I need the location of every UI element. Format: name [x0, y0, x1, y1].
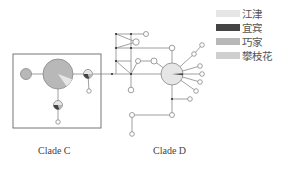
- legend: 江津 宜宾 巧家 攀枝花: [216, 6, 272, 62]
- haplotype-node: [200, 43, 205, 48]
- haplotype-node: [169, 45, 175, 51]
- haplotype-node: [130, 132, 135, 137]
- haplotype-node: [170, 113, 175, 118]
- legend-item-qiaojia: 巧家: [216, 34, 272, 48]
- legend-item-jiangjin: 江津: [216, 6, 272, 20]
- legend-label: 巧家: [242, 34, 262, 49]
- haplotype-node: [151, 58, 157, 64]
- haplotype-node: [136, 59, 141, 64]
- haplotype-node: [198, 80, 203, 85]
- clade-d-label: Clade D: [153, 145, 186, 156]
- haplotype-node: [144, 32, 149, 37]
- haplotype-node: [192, 52, 197, 57]
- haplotype-node: [87, 89, 91, 93]
- legend-swatch: [216, 52, 240, 59]
- median-vector-dot: [130, 47, 132, 49]
- network-edge: [116, 61, 131, 74]
- legend-swatch: [216, 38, 240, 45]
- median-vector-dot: [115, 47, 117, 49]
- haplotype-node: [188, 97, 193, 102]
- legend-item-yibin: 宜宾: [216, 20, 272, 34]
- haplotype-node: [56, 120, 60, 124]
- legend-label: 宜宾: [242, 20, 262, 35]
- haplotype-node: [194, 89, 199, 94]
- legend-swatch: [216, 24, 240, 31]
- median-vector-dot: [115, 33, 117, 35]
- clade-c-left-haplotype: [21, 69, 32, 80]
- legend-label: 攀枝花: [242, 48, 272, 63]
- median-vector-dot: [130, 73, 132, 75]
- median-vector-dot: [115, 60, 117, 62]
- median-vector-dot: [171, 98, 173, 100]
- legend-swatch: [216, 10, 240, 17]
- median-vector-dot: [130, 33, 132, 35]
- network-nodes: [21, 32, 205, 137]
- legend-item-panzhihua: 攀枝花: [216, 48, 272, 62]
- median-vector-dot: [111, 73, 113, 75]
- haplotype-node: [130, 113, 135, 118]
- legend-label: 江津: [242, 6, 262, 21]
- haplotype-node: [128, 87, 134, 93]
- haplotype-node: [200, 72, 205, 77]
- haplotype-node: [198, 64, 203, 69]
- haplotype-node: [133, 39, 139, 45]
- clade-c-label: Clade C: [38, 145, 71, 156]
